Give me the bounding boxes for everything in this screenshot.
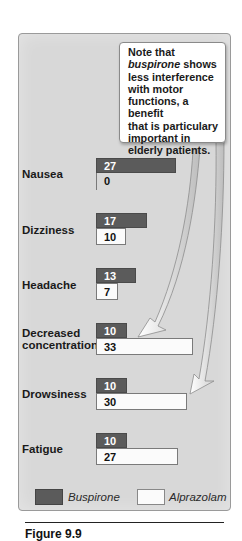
callout-line: important in <box>128 132 223 144</box>
callout-drug-name: buspirone <box>128 58 180 70</box>
callout-line: with motor <box>128 83 223 95</box>
bar-alprazolam: 0 <box>96 173 126 190</box>
category-label: Nausea <box>22 168 63 181</box>
bar-alprazolam: 7 <box>96 283 118 300</box>
category-label: Dizziness <box>22 224 74 237</box>
callout-text: shows <box>180 58 217 70</box>
figure-caption: Figure 9.9 <box>25 527 82 541</box>
bar-buspirone: 10 <box>96 378 127 393</box>
callout-line: elderly patients. <box>128 144 223 156</box>
legend-swatch-buspirone <box>35 489 63 505</box>
bar-alprazolam: 27 <box>96 448 178 465</box>
bar-buspirone: 27 <box>96 158 176 173</box>
category-label-line2: concentration <box>22 339 98 352</box>
bar-buspirone: 10 <box>96 433 127 448</box>
bar-alprazolam: 30 <box>96 393 187 410</box>
callout-line: less interference <box>128 71 223 83</box>
bar-buspirone: 17 <box>96 213 147 228</box>
callout-line: functions, a benefit <box>128 95 223 120</box>
bar-alprazolam: 10 <box>96 228 126 245</box>
callout-line: that is particulary <box>128 120 223 132</box>
category-label: Fatigue <box>22 443 63 456</box>
bar-alprazolam: 33 <box>96 338 193 355</box>
category-label: Headache <box>22 279 76 292</box>
bar-buspirone: 13 <box>96 268 136 283</box>
legend-label-buspirone: Buspirone <box>68 490 120 504</box>
category-label: Drowsiness <box>22 388 87 401</box>
caption-divider <box>25 522 224 523</box>
legend-swatch-alprazolam <box>137 489 165 505</box>
legend-label-alprazolam: Alprazolam <box>169 490 227 504</box>
bar-buspirone: 10 <box>96 323 127 338</box>
callout-line: Note that <box>128 46 223 58</box>
callout-line: buspirone shows <box>128 58 223 70</box>
annotation-callout: Note that buspirone shows less interfere… <box>119 42 226 143</box>
